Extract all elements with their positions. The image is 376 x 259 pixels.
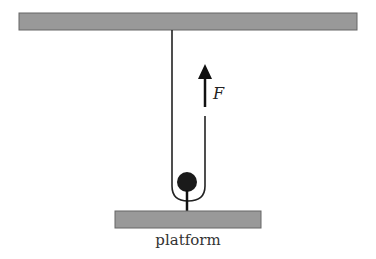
pulley-platform-diagram: F platform [0, 0, 376, 259]
force-arrow-head-icon [198, 64, 212, 79]
platform-label: platform [155, 231, 220, 249]
platform [115, 211, 261, 228]
force-label: F [212, 84, 225, 103]
ball [177, 172, 197, 192]
ceiling-beam [19, 13, 357, 30]
